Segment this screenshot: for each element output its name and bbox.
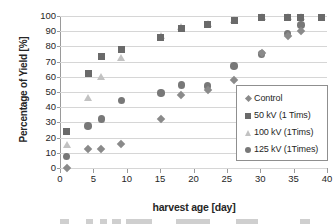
legend-item-label: 50 kV (1 Tims) <box>254 111 311 120</box>
y-tick-mark <box>57 107 60 108</box>
y-tick-label: 10 <box>30 148 56 158</box>
x-tick-label: 30 <box>248 174 272 184</box>
cropped-text-fragment <box>126 219 152 224</box>
x-axis-title: harvest age [day] <box>60 201 328 213</box>
cropped-text-fragment <box>112 219 121 224</box>
y-tick-mark <box>57 92 60 93</box>
square-marker-icon <box>242 113 254 119</box>
x-tick-label: 10 <box>115 174 139 184</box>
y-tick-mark <box>57 62 60 63</box>
y-tick-label: 90 <box>30 26 56 36</box>
data-point <box>63 128 70 135</box>
x-tick-label: 35 <box>282 174 306 184</box>
data-point <box>63 153 71 161</box>
y-tick-mark <box>57 153 60 154</box>
gridline <box>60 46 327 47</box>
cropped-text-fragment <box>176 219 210 224</box>
cropped-text-fragment <box>236 219 258 224</box>
data-point <box>157 34 164 41</box>
data-point <box>157 32 165 39</box>
data-point <box>230 62 238 70</box>
y-tick-mark <box>57 77 60 78</box>
data-point <box>117 140 125 148</box>
legend-item: 50 kV (1 Tims) <box>242 107 327 124</box>
data-point <box>283 32 291 40</box>
x-tick-label: 0 <box>48 174 72 184</box>
y-tick-label: 100 <box>30 11 56 21</box>
data-point <box>84 94 92 101</box>
x-tick-label: 40 <box>315 174 333 184</box>
data-point <box>84 144 92 152</box>
y-tick-label: 70 <box>30 57 56 67</box>
y-tick-label: 60 <box>30 72 56 82</box>
diamond-marker-icon <box>242 96 254 101</box>
data-point <box>297 21 305 29</box>
data-point <box>231 17 238 24</box>
data-point <box>257 49 265 57</box>
cropped-text-fragment <box>86 219 93 224</box>
y-tick-mark <box>57 31 60 32</box>
y-axis-tick-labels: 0102030405060708090100 <box>27 0 56 224</box>
y-tick-mark <box>57 16 60 17</box>
gridline <box>60 77 327 78</box>
triangle-marker-icon <box>242 130 254 136</box>
data-point <box>258 50 266 58</box>
x-tick-label: 5 <box>81 174 105 184</box>
legend-item: 100 kV (1Tims) <box>242 124 327 141</box>
legend-item-label: 125 kV (1Times) <box>254 145 318 154</box>
y-tick-label: 20 <box>30 133 56 143</box>
cropped-text-fragment <box>60 219 69 224</box>
y-tick-mark <box>57 138 60 139</box>
legend-item: Control <box>242 90 327 107</box>
y-tick-label: 0 <box>30 163 56 173</box>
y-tick-label: 50 <box>30 87 56 97</box>
data-point <box>117 54 125 61</box>
gridline <box>60 62 327 63</box>
x-tick-label: 15 <box>148 174 172 184</box>
data-point <box>204 21 211 28</box>
y-tick-mark <box>57 46 60 47</box>
data-point <box>98 53 105 60</box>
chart-legend: Control50 kV (1 Tims)100 kV (1Tims)125 k… <box>236 85 328 161</box>
data-point <box>204 82 212 90</box>
cropped-text-fragment <box>100 219 107 224</box>
data-point <box>118 97 126 105</box>
data-point <box>204 20 212 27</box>
data-point <box>177 23 185 30</box>
y-tick-mark <box>57 122 60 123</box>
data-point <box>63 141 71 148</box>
cropped-bottom-legend-artifact <box>0 218 333 224</box>
legend-item-label: Control <box>254 94 282 103</box>
cropped-text-fragment <box>300 219 310 224</box>
x-tick-label: 20 <box>182 174 206 184</box>
circle-marker-icon <box>242 147 254 153</box>
gridline <box>60 31 327 32</box>
data-point <box>157 89 165 97</box>
y-tick-label: 80 <box>30 41 56 51</box>
y-tick-label: 40 <box>30 102 56 112</box>
legend-item-label: 100 kV (1Tims) <box>254 128 313 137</box>
x-tick-label: 25 <box>215 174 239 184</box>
y-tick-label: 30 <box>30 117 56 127</box>
gridline <box>60 16 327 17</box>
data-point <box>297 14 304 21</box>
data-point <box>178 81 186 89</box>
data-point <box>84 122 92 130</box>
legend-item: 125 kV (1Times) <box>242 141 327 158</box>
scatter-chart: Percentage of Yield [%] 0102030405060708… <box>0 0 333 224</box>
